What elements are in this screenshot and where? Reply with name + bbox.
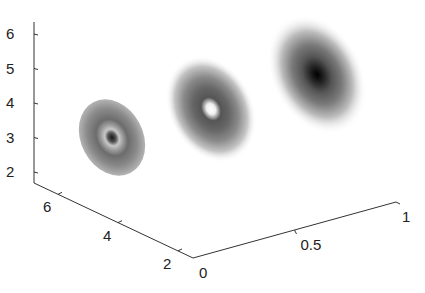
z-tick-label: 3 — [6, 129, 14, 146]
y-tick-mark — [58, 192, 62, 194]
z-tick-label: 2 — [6, 163, 14, 180]
y-tick-label: 6 — [43, 198, 51, 215]
z-tick-mark — [34, 69, 38, 70]
surface-slice-1 — [66, 88, 158, 188]
z-tick-mark — [34, 34, 38, 35]
z-tick-label: 4 — [6, 94, 14, 111]
z-tick-label: 6 — [6, 25, 14, 42]
z-tick-label: 5 — [6, 60, 14, 77]
surface-slices — [66, 0, 386, 187]
z-tick-mark — [34, 103, 38, 104]
x-axis-end-mark — [396, 202, 400, 204]
y-tick-label: 2 — [163, 255, 171, 272]
x-tick-label: 0.5 — [301, 236, 322, 253]
x-tick-label: 1 — [402, 208, 410, 225]
y-tick-mark — [178, 249, 182, 251]
chart-3d: 2345624600.51 — [0, 0, 425, 293]
y-tick-label: 4 — [103, 227, 111, 244]
y-axis-line — [34, 183, 193, 258]
x-tick-mark — [295, 230, 297, 234]
x-tick-label: 0 — [199, 264, 207, 281]
z-tick-mark — [34, 172, 38, 173]
z-tick-mark — [34, 138, 38, 139]
y-tick-mark — [118, 221, 122, 223]
surface-slice-3 — [248, 0, 387, 151]
surface-slice-2 — [148, 40, 275, 178]
